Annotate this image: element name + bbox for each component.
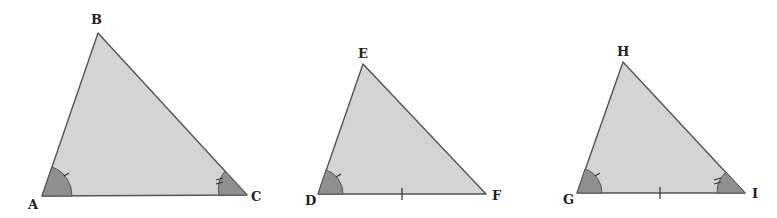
vertex-label-a: A [27,197,39,212]
vertex-label-b: B [91,12,102,27]
vertex-label-d: D [305,193,316,208]
triangle-def-shape [318,64,486,194]
vertex-label-c: C [251,189,261,204]
vertex-label-h: H [617,44,629,59]
triangle-ghi: G H I [563,44,758,207]
vertex-label-i: I [752,186,758,201]
vertex-label-e: E [358,46,368,61]
triangle-def: D E F [305,46,502,208]
congruence-diagram: A B C D E F G H I [0,0,777,218]
angle-c-mark [218,171,247,195]
triangle-abc: A B C [27,12,261,212]
triangle-abc-shape [42,33,247,196]
vertex-label-f: F [492,188,502,203]
triangle-ghi-shape [577,62,745,193]
vertex-label-g: G [563,192,574,207]
